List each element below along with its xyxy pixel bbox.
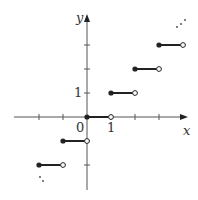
dot-upper: [180, 23, 182, 25]
step-segment: [36, 162, 65, 167]
open-dot: [181, 43, 186, 48]
step-segment: [156, 42, 185, 47]
dot-upper: [184, 19, 186, 21]
step-segment: [108, 90, 137, 95]
open-dot: [157, 67, 162, 72]
open-dot: [61, 163, 66, 168]
y-tick-label-1: 1: [74, 85, 82, 100]
x-axis-label: x: [183, 123, 191, 138]
dot-lower: [39, 176, 41, 178]
y-axis-label: y: [75, 10, 84, 25]
dot-lower: [42, 180, 44, 182]
open-dot: [85, 139, 90, 144]
closed-dot: [132, 66, 137, 71]
chart-container: y x 0 1 1: [0, 0, 198, 200]
open-dot: [133, 91, 138, 96]
step-segments: [36, 42, 185, 167]
origin-label: 0: [76, 120, 84, 135]
y-axis-arrow-icon: [84, 14, 90, 22]
closed-dot: [156, 42, 161, 47]
x-axis-arrow-icon: [180, 114, 188, 120]
continuation-dots: [39, 19, 186, 182]
closed-dot: [36, 162, 41, 167]
open-dot: [109, 115, 114, 120]
step-segment: [84, 114, 113, 119]
closed-dot: [60, 138, 65, 143]
step-function-plot: y x 0 1 1: [0, 0, 198, 200]
closed-dot: [108, 90, 113, 95]
step-segment: [132, 66, 161, 71]
step-segment: [60, 138, 89, 143]
x-tick-label-1: 1: [107, 120, 115, 135]
dot-upper: [176, 26, 178, 28]
closed-dot: [84, 114, 89, 119]
